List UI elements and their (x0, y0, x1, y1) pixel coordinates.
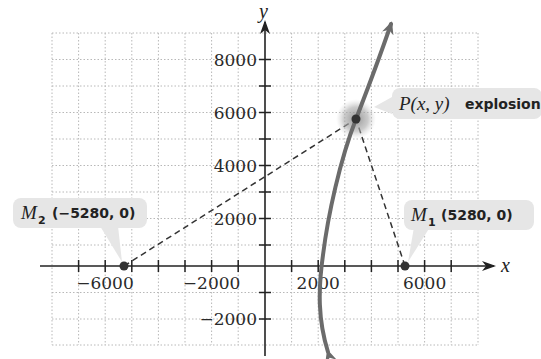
callout-m2: M 2 (−5280, 0) (13, 198, 147, 262)
x-tick-label-6000: 6000 (403, 273, 446, 293)
segment-m1-p (356, 119, 405, 266)
y-tick-label-neg2000: −2000 (199, 309, 257, 329)
callout-m2-sub: 2 (38, 214, 46, 227)
callout-p-symbol: P(x, y) (398, 93, 450, 115)
y-tick-label-2000: 2000 (214, 209, 257, 229)
hyperbola-chart: −6000 −2000 2000 6000 8000 6000 4000 200… (0, 0, 541, 359)
y-tick-label-8000: 8000 (214, 50, 257, 70)
point-m1 (401, 262, 410, 271)
callout-p: P(x, y) explosion (374, 88, 541, 119)
point-m2 (120, 262, 129, 271)
segment-m2-p (124, 119, 356, 266)
y-axis-label: y (257, 0, 268, 23)
callout-p-word: explosion (465, 96, 541, 112)
callout-m1-sub: 1 (428, 216, 436, 229)
y-tick-label-4000: 4000 (214, 156, 257, 176)
callout-m1: M 1 (5280, 0) (404, 200, 534, 262)
callout-m1-symbol: M (410, 204, 428, 225)
x-tick-label-neg6000: −6000 (76, 273, 134, 293)
callout-m2-symbol: M (20, 202, 38, 223)
hyperbola-curve (320, 24, 391, 352)
callout-m1-coords: (5280, 0) (441, 207, 513, 223)
axes (40, 22, 494, 356)
x-tick-label-neg2000: −2000 (183, 273, 241, 293)
x-axis-label: x (500, 254, 510, 276)
callout-m2-coords: (−5280, 0) (52, 205, 135, 221)
y-tick-label-6000: 6000 (214, 103, 257, 123)
point-p (352, 115, 361, 124)
